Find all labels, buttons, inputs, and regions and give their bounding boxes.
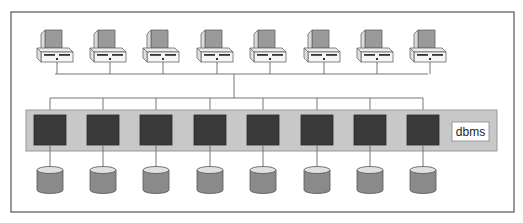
processor-node-icon (140, 115, 172, 145)
processor-node-icon (407, 115, 439, 145)
disk-cylinder-icon (410, 167, 436, 194)
processor-node-icon (34, 115, 66, 145)
disk-cylinder-icon (90, 167, 116, 194)
processor-node-icon (247, 115, 279, 145)
architecture-diagram: dbms (0, 0, 523, 223)
disk-cylinder-icon (143, 167, 169, 194)
disk-cylinder-icon (304, 167, 330, 194)
dbms-label: dbms (456, 125, 485, 139)
processor-node-icon (194, 115, 226, 145)
disk-cylinder-icon (250, 167, 276, 194)
processor-node-icon (301, 115, 333, 145)
processor-node-icon (87, 115, 119, 145)
disk-cylinder-icon (197, 167, 223, 194)
processor-node-icon (354, 115, 386, 145)
disk-cylinder-icon (357, 167, 383, 194)
disk-cylinder-icon (37, 167, 63, 194)
